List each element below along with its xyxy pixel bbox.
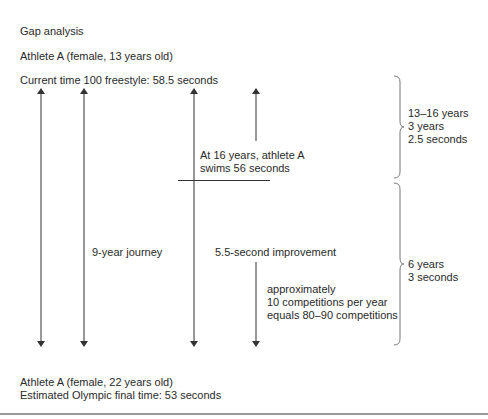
gap-diagram-graphics <box>0 0 488 419</box>
lower-brace-line-2: 3 seconds <box>408 271 458 284</box>
improvement-label: 5.5-second improvement <box>215 246 336 259</box>
upper-brace-line-2: 3 years <box>408 120 469 133</box>
upper-brace <box>394 76 404 178</box>
journey-label: 9-year journey <box>92 246 162 259</box>
end-athlete-label: Athlete A (female, 22 years old) <box>20 376 221 389</box>
milestone-text: At 16 years, athlete A swims 56 seconds <box>200 149 305 175</box>
milestone-line-1: At 16 years, athlete A <box>200 149 305 162</box>
milestone-line-2: swims 56 seconds <box>200 162 305 175</box>
upper-brace-text: 13–16 years 3 years 2.5 seconds <box>408 107 469 146</box>
competitions-text: approximately 10 competitions per year e… <box>267 283 398 322</box>
bottom-divider <box>0 413 488 415</box>
competitions-line-1: approximately <box>267 283 398 296</box>
lower-brace-text: 6 years 3 seconds <box>408 258 458 284</box>
end-text: Athlete A (female, 22 years old) Estimat… <box>20 376 221 402</box>
upper-brace-line-1: 13–16 years <box>408 107 469 120</box>
final-time-label: Estimated Olympic final time: 53 seconds <box>20 389 221 402</box>
competitions-line-3: equals 80–90 competitions <box>267 309 398 322</box>
competitions-line-2: 10 competitions per year <box>267 296 398 309</box>
upper-brace-line-3: 2.5 seconds <box>408 133 469 146</box>
lower-brace-line-1: 6 years <box>408 258 458 271</box>
